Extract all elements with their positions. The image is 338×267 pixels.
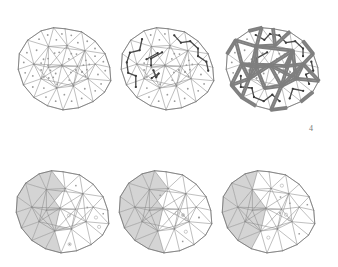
centroid-dot bbox=[200, 74, 202, 76]
centroid-dot bbox=[158, 39, 160, 41]
tree-node bbox=[305, 73, 307, 75]
centroid-dot bbox=[81, 71, 83, 73]
centroid-dot bbox=[166, 94, 168, 96]
centroid-dot bbox=[47, 58, 49, 60]
centroid-dot bbox=[148, 96, 150, 98]
centroid-dot bbox=[70, 53, 72, 55]
centroid-dot bbox=[40, 62, 42, 64]
tree-node bbox=[152, 69, 154, 71]
centroid-dot bbox=[55, 39, 57, 41]
centroid-dot bbox=[246, 38, 248, 40]
centroid-dot bbox=[263, 73, 265, 75]
centroid-dot bbox=[189, 69, 191, 71]
centroid-dot bbox=[146, 76, 148, 78]
centroid-dot bbox=[191, 64, 193, 66]
centroid-dot bbox=[86, 40, 88, 42]
centroid-dot bbox=[61, 33, 63, 35]
filled-square-marker bbox=[103, 213, 104, 215]
centroid-dot bbox=[184, 98, 186, 100]
filled-square-marker bbox=[75, 185, 77, 187]
centroid-dot bbox=[58, 51, 60, 53]
centroid-dot bbox=[262, 52, 264, 54]
filled-square-marker bbox=[289, 203, 291, 205]
centroid-dot bbox=[43, 87, 45, 89]
centroid-dot bbox=[83, 64, 85, 66]
centroid-dot bbox=[38, 38, 40, 40]
centroid-dot bbox=[173, 53, 175, 55]
centroid-dot bbox=[68, 58, 70, 60]
filled-square-marker bbox=[64, 190, 66, 191]
tree-node bbox=[269, 33, 271, 35]
centroid-dot bbox=[47, 65, 49, 67]
centroid-dot bbox=[85, 75, 87, 77]
tree-node bbox=[207, 70, 209, 72]
centroid-dot bbox=[77, 42, 79, 44]
filled-square-marker bbox=[298, 233, 299, 235]
centroid-dot bbox=[97, 74, 99, 76]
tree-node bbox=[255, 34, 257, 36]
centroid-dot bbox=[150, 34, 152, 36]
centroid-dot bbox=[63, 94, 65, 96]
centroid-dot bbox=[188, 59, 190, 61]
centroid-dot bbox=[76, 53, 78, 55]
tree-node bbox=[292, 88, 294, 90]
centroid-dot bbox=[188, 75, 190, 77]
tree-node bbox=[263, 100, 265, 102]
centroid-dot bbox=[26, 52, 28, 54]
centroid-dot bbox=[159, 83, 161, 85]
centroid-dot bbox=[86, 69, 88, 71]
centroid-dot bbox=[94, 55, 96, 57]
centroid-dot bbox=[24, 72, 26, 74]
filled-square-marker bbox=[69, 243, 70, 245]
centroid-dot bbox=[72, 83, 74, 85]
tree-node bbox=[278, 34, 280, 36]
centroid-dot bbox=[174, 100, 176, 102]
tree-node bbox=[141, 38, 143, 40]
centroid-dot bbox=[56, 83, 58, 85]
figure-number-label: 4 bbox=[309, 124, 313, 133]
centroid-dot bbox=[55, 100, 57, 102]
filled-square-marker bbox=[182, 214, 184, 215]
tree-node bbox=[240, 75, 242, 77]
filled-square-marker bbox=[159, 195, 161, 197]
tree-node bbox=[279, 100, 281, 102]
centroid-dot bbox=[55, 73, 57, 75]
filled-square-marker bbox=[182, 241, 184, 243]
centroid-dot bbox=[179, 53, 181, 55]
centroid-dot bbox=[256, 77, 258, 79]
centroid-dot bbox=[146, 87, 148, 89]
centroid-dot bbox=[43, 58, 45, 60]
centroid-dot bbox=[81, 98, 83, 100]
tree-node bbox=[150, 64, 152, 66]
centroid-dot bbox=[143, 69, 145, 71]
tree-node bbox=[263, 39, 265, 41]
centroid-dot bbox=[66, 47, 68, 49]
centroid-dot bbox=[278, 53, 280, 55]
tree-node bbox=[129, 52, 131, 54]
tree-node bbox=[197, 47, 199, 49]
tree-node bbox=[127, 72, 129, 74]
centroid-dot bbox=[94, 48, 96, 50]
tree-node bbox=[302, 47, 304, 49]
centroid-dot bbox=[50, 69, 52, 71]
tree-node bbox=[253, 96, 255, 98]
tree-node bbox=[205, 61, 207, 63]
filled-square-marker bbox=[279, 212, 281, 213]
centroid-dot bbox=[100, 83, 102, 85]
tree-node bbox=[139, 49, 141, 51]
tree-node bbox=[310, 61, 312, 63]
centroid-dot bbox=[244, 49, 246, 51]
centroid-dot bbox=[171, 58, 173, 60]
centroid-dot bbox=[94, 90, 96, 92]
filled-square-marker bbox=[198, 217, 200, 218]
centroid-dot bbox=[173, 72, 175, 74]
tree-node bbox=[126, 61, 128, 63]
centroid-dot bbox=[43, 76, 45, 78]
tree-node bbox=[173, 34, 175, 36]
tree-node bbox=[151, 77, 153, 79]
centroid-dot bbox=[102, 61, 104, 63]
filled-square-marker bbox=[307, 204, 309, 206]
centroid-dot bbox=[169, 47, 171, 49]
centroid-dot bbox=[70, 34, 72, 36]
tree-node bbox=[145, 58, 147, 60]
